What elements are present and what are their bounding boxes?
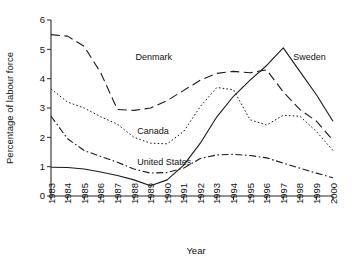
x-axis-tick-label: 1991 [178, 183, 189, 204]
series-annotations: DenmarkSwedenCanadaUnited States [136, 52, 326, 167]
y-axis-tick-label: 4 [40, 73, 45, 84]
y-axis-tick-label: 3 [40, 102, 45, 113]
x-axis: 1983198419851986198719881989199019911992… [46, 183, 339, 204]
y-axis: 0123456 [40, 14, 51, 201]
x-axis-tick-label: 1993 [211, 183, 222, 204]
series-label-denmark: Denmark [136, 52, 173, 62]
y-axis-tick-label: 5 [40, 44, 45, 55]
x-axis-tick-label: 1994 [228, 183, 239, 204]
x-axis-tick-label: 1984 [62, 183, 73, 204]
y-axis-title: Percentage of labour force [4, 52, 15, 164]
series-line-denmark [51, 35, 333, 141]
x-axis-tick-label: 1995 [245, 183, 256, 204]
x-axis-tick-label: 1986 [95, 183, 106, 204]
x-axis-tick-label: 1999 [311, 183, 322, 204]
x-axis-tick-label: 1983 [46, 183, 57, 204]
x-axis-tick-label: 1997 [278, 183, 289, 204]
y-axis-tick-label: 0 [40, 190, 45, 201]
x-axis-tick-label: 1990 [162, 183, 173, 204]
x-axis-title: Year [186, 245, 205, 256]
series-line-united-states [51, 116, 333, 178]
x-axis-tick-label: 1992 [195, 183, 206, 204]
series-label-united-states: United States [137, 157, 192, 167]
x-axis-tick-label: 1998 [294, 183, 305, 204]
y-axis-tick-label: 2 [40, 132, 45, 143]
chart-figure: 0123456 19831984198519861987198819891990… [0, 0, 356, 260]
x-axis-tick-label: 1996 [261, 183, 272, 204]
series-label-canada: Canada [137, 126, 169, 136]
y-axis-tick-label: 6 [40, 14, 45, 25]
x-axis-tick-label: 2000 [328, 183, 339, 204]
series-line-canada [51, 87, 333, 150]
x-axis-tick-label: 1987 [112, 183, 123, 204]
x-axis-tick-label: 1988 [129, 183, 140, 204]
series-label-sweden: Sweden [293, 52, 326, 62]
y-axis-tick-label: 1 [40, 161, 45, 172]
series-layer [51, 35, 333, 186]
x-axis-tick-label: 1985 [79, 183, 90, 204]
line-chart-canvas: 0123456 19831984198519861987198819891990… [0, 0, 356, 260]
